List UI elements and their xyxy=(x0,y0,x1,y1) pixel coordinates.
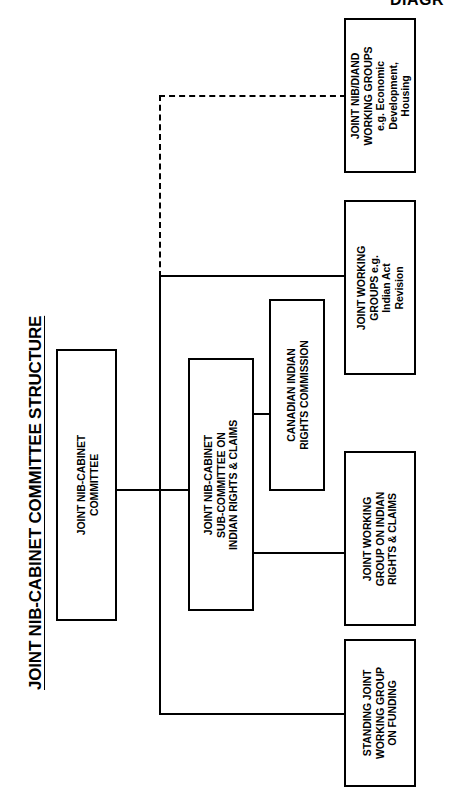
page-title: JOINT NIB-CABINET COMMITTEE STRUCTURE xyxy=(26,316,46,690)
node-joint-working-groups-indian-act[interactable]: JOINT WORKING GROUPS e.g. Indian Act Rev… xyxy=(344,200,416,375)
connector-subcommittee-to-joint-wg-rights-claims xyxy=(254,552,345,554)
connector-trunk-to-standing-wg-funding xyxy=(159,713,345,715)
node-label: JOINT NIB-CABINET SUB-COMMITTEE ON INDIA… xyxy=(202,419,240,549)
node-label: JOINT NIB-CABINET COMMITTEE xyxy=(74,435,99,535)
trunk-line-main xyxy=(159,275,161,715)
node-label: JOINT NIB/DIAND WORKING GROUPS e.g. Econ… xyxy=(349,46,412,145)
node-joint-working-group-indian-rights-claims[interactable]: JOINT WORKING GROUP ON INDIAN RIGHTS & C… xyxy=(344,451,416,626)
node-joint-nib-diand-working-groups[interactable]: JOINT NIB/DIAND WORKING GROUPS e.g. Econ… xyxy=(344,18,416,173)
connector-subcommittee-to-rights-commission xyxy=(254,413,270,415)
diagram-canvas: DIAGR JOINT NIB-CABINET COMMITTEE STRUCT… xyxy=(0,0,452,798)
node-canadian-indian-rights-commission[interactable]: CANADIAN INDIAN RIGHTS COMMISSION xyxy=(269,299,325,491)
connector-trunk-to-joint-wg-indian-act xyxy=(159,275,345,277)
node-joint-nib-cabinet-committee[interactable]: JOINT NIB-CABINET COMMITTEE xyxy=(56,349,117,621)
node-joint-nib-cabinet-sub-committee[interactable]: JOINT NIB-CABINET SUB-COMMITTEE ON INDIA… xyxy=(188,358,254,611)
node-label: JOINT WORKING GROUP ON INDIAN RIGHTS & C… xyxy=(361,491,399,586)
node-standing-joint-working-group-funding[interactable]: STANDING JOINT WORKING GROUP ON FUNDING xyxy=(344,639,416,787)
node-label: CANADIAN INDIAN RIGHTS COMMISSION xyxy=(285,340,310,450)
dashed-connector-horizontal xyxy=(159,95,346,97)
node-label: JOINT WORKING GROUPS e.g. Indian Act Rev… xyxy=(355,245,405,329)
cropped-header-text: DIAGR xyxy=(390,0,444,9)
connector-trunk-to-subcommittee xyxy=(159,489,190,491)
dashed-connector-vertical xyxy=(159,95,161,277)
node-label: STANDING JOINT WORKING GROUP ON FUNDING xyxy=(361,667,399,759)
connector-committee-to-trunk xyxy=(117,489,161,491)
